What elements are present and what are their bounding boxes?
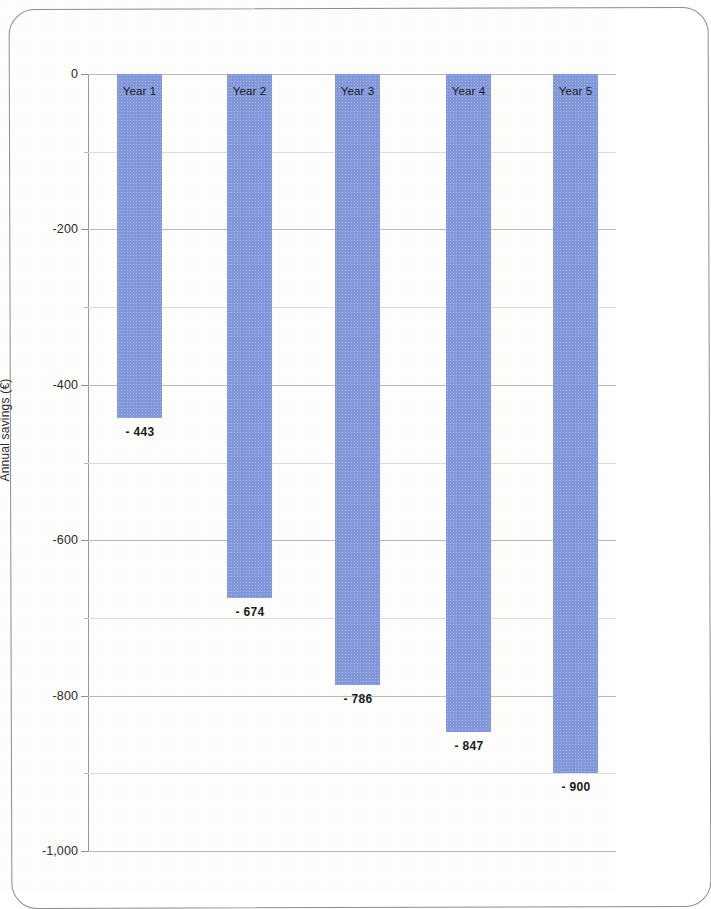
bar-value-label: - 900 <box>546 780 606 794</box>
bar[interactable]: Year 1 <box>117 74 162 418</box>
y-tick-mark <box>81 540 88 541</box>
y-tick-mark-minor <box>84 463 88 464</box>
bar-value-label: - 786 <box>328 692 388 706</box>
gridline-major <box>88 851 616 852</box>
y-axis-tick-label: 0 <box>0 67 78 81</box>
y-axis-tick-label: -1,000 <box>0 844 78 858</box>
y-tick-mark <box>81 74 88 75</box>
y-axis-tick-label: -400 <box>0 378 78 392</box>
y-axis-tick-label: -800 <box>0 689 78 703</box>
y-axis-tick-label: -200 <box>0 222 78 236</box>
y-axis-tick-label: -600 <box>0 533 78 547</box>
y-tick-mark-minor <box>84 773 88 774</box>
y-tick-mark-minor <box>84 307 88 308</box>
y-tick-mark-minor <box>84 152 88 153</box>
bar-category-label: Year 1 <box>117 85 162 97</box>
bar[interactable]: Year 5 <box>553 74 598 773</box>
bar-category-label: Year 2 <box>227 85 272 97</box>
plot-area: Year 1- 443Year 2- 674Year 3- 786Year 4-… <box>88 74 616 851</box>
bar-category-label: Year 5 <box>553 85 598 97</box>
bar-category-label: Year 3 <box>335 85 380 97</box>
bar[interactable]: Year 2 <box>227 74 272 598</box>
y-tick-mark-minor <box>84 618 88 619</box>
y-tick-mark <box>81 851 88 852</box>
gridline-minor <box>88 773 616 774</box>
y-axis-title: Annual savings (€) <box>0 379 12 482</box>
bar[interactable]: Year 3 <box>335 74 380 685</box>
bar-value-label: - 847 <box>439 739 499 753</box>
bar-value-label: - 443 <box>110 425 170 439</box>
bar[interactable]: Year 4 <box>446 74 491 732</box>
bar-category-label: Year 4 <box>446 85 491 97</box>
bar-value-label: - 674 <box>220 605 280 619</box>
y-tick-mark <box>81 229 88 230</box>
y-tick-mark <box>81 385 88 386</box>
y-tick-mark <box>81 696 88 697</box>
